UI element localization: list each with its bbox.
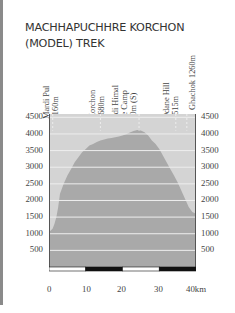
- waypoint-label-ghachok: Ghachok 1260m: [188, 55, 197, 110]
- y-tick-label: 500: [201, 244, 214, 254]
- y-tick-label: 1000: [0, 228, 43, 238]
- y-tick-label: 4000: [201, 128, 219, 138]
- x-tick-label: 30: [154, 284, 163, 294]
- y-tick-label: 2000: [201, 194, 219, 204]
- waypoint-name: Ghachok: [188, 80, 197, 110]
- y-tick-label: 1000: [201, 228, 219, 238]
- y-tick-label: 1500: [0, 211, 43, 221]
- y-tick-label: 1500: [201, 211, 219, 221]
- y-tick-label: 3500: [0, 145, 43, 155]
- chart-title-line-1: MACHHAPUCHHRE KORCHON: [25, 20, 184, 36]
- scale-bar-segment: [49, 267, 86, 271]
- y-tick-label: 3000: [0, 161, 43, 171]
- chart-title-line-2: (MODEL) TREK: [25, 36, 184, 52]
- waypoint-elevation: 1260m: [188, 55, 197, 78]
- scale-bar-segment: [86, 267, 123, 271]
- y-tick-label: 3000: [201, 161, 219, 171]
- x-tick-label: 10: [82, 284, 91, 294]
- y-tick-label: 4500: [201, 111, 219, 121]
- elevation-profile-svg: [49, 114, 196, 273]
- chart-title: MACHHAPUCHHRE KORCHON (MODEL) TREK: [25, 20, 184, 52]
- scale-bar-segment: [123, 267, 160, 271]
- y-tick-label: 2500: [0, 178, 43, 188]
- y-tick-label: 4500: [0, 111, 43, 121]
- y-tick-label: 3500: [201, 145, 219, 155]
- x-tick-label: 0: [47, 284, 51, 294]
- scale-bar-segment: [159, 267, 196, 271]
- y-tick-label: 500: [0, 244, 43, 254]
- elevation-plot: [49, 114, 196, 273]
- x-tick-label: 40km: [186, 284, 206, 294]
- y-tick-label: 4000: [0, 128, 43, 138]
- x-tick-label: 20: [117, 284, 126, 294]
- y-tick-label: 2000: [0, 194, 43, 204]
- y-tick-label: 2500: [201, 178, 219, 188]
